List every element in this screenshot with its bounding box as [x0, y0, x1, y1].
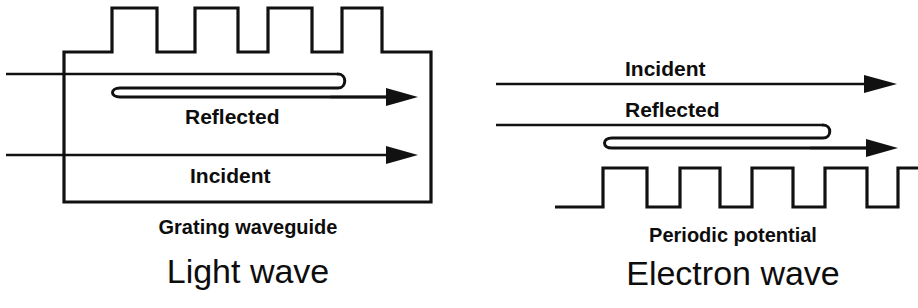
periodic-potential-waveform: [555, 168, 918, 207]
figure-canvas: Reflected Incident Grating waveguide Lig…: [0, 0, 918, 308]
light-incident-label: Incident: [190, 164, 271, 187]
light-reflection-hairpin: [113, 74, 394, 97]
electron-incident-label: Incident: [625, 57, 706, 80]
light-incident-arrow: [6, 146, 418, 164]
electron-wave-title: Electron wave: [626, 254, 840, 292]
electron-reflected-label: Reflected: [625, 98, 720, 121]
electron-reflection-hairpin: [605, 125, 877, 148]
light-reflected-arrow: [330, 88, 418, 106]
light-wave-title: Light wave: [167, 252, 330, 290]
panel-electron-wave: Incident Reflected Periodic potential E: [496, 57, 918, 292]
periodic-potential-caption: Periodic potential: [649, 224, 817, 246]
electron-reflected-arrow: [810, 139, 898, 157]
light-reflected-label: Reflected: [185, 105, 280, 128]
grating-waveguide-caption: Grating waveguide: [159, 216, 338, 238]
panel-light-wave: Reflected Incident Grating waveguide Lig…: [6, 8, 431, 290]
diagram-svg: Reflected Incident Grating waveguide Lig…: [0, 0, 918, 308]
